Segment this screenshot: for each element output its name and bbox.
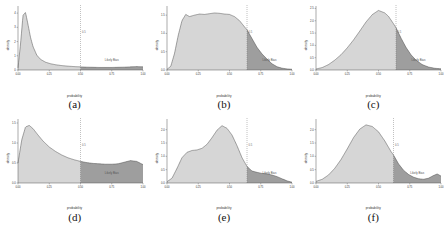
- x-tick-e-0: 0.00: [164, 184, 170, 188]
- plot-area-f: density 0.50.000.250.500.751.000.00.51.0…: [302, 115, 444, 201]
- y-tick-f-1: 0.5: [310, 167, 314, 171]
- threshold-label-b: 0.5: [249, 30, 253, 34]
- x-tick-f-0: 0.00: [314, 184, 320, 188]
- x-tick-e-2: 0.50: [227, 184, 233, 188]
- figure-grid: density 0.50.000.250.500.751.0001234Like…: [0, 0, 448, 225]
- panel-e: density 0.50.000.250.500.751.000.00.51.0…: [149, 113, 298, 226]
- x-tick-a-2: 0.50: [78, 72, 84, 76]
- density-chart-d: 0.50.000.250.500.751.000.00.51.01.5Likel…: [4, 115, 146, 201]
- y-tick-f-2: 1.0: [310, 154, 314, 158]
- density-chart-f: 0.50.000.250.500.751.000.00.51.01.52.0Li…: [302, 115, 444, 201]
- threshold-label-c: 0.5: [398, 30, 402, 34]
- x-axis-label-d: probability: [4, 206, 146, 210]
- y-tick-f-3: 1.5: [310, 141, 314, 145]
- y-tick-c-3: 1.5: [310, 31, 314, 35]
- y-tick-f-4: 2.0: [310, 127, 314, 131]
- x-tick-c-2: 0.50: [376, 72, 382, 76]
- x-tick-d-4: 1.00: [140, 184, 146, 188]
- bias-annotation-b: Likely Bias: [263, 58, 277, 62]
- bias-annotation-c: Likely Bias: [412, 58, 426, 62]
- y-tick-c-2: 1.0: [310, 43, 314, 47]
- x-tick-f-2: 0.50: [376, 184, 382, 188]
- y-tick-e-1: 0.5: [161, 167, 165, 171]
- density-chart-e: 0.50.000.250.500.751.000.00.51.01.52.0Li…: [153, 115, 295, 201]
- y-tick-c-5: 2.5: [310, 6, 314, 10]
- plot-area-e: density 0.50.000.250.500.751.000.00.51.0…: [153, 115, 295, 201]
- threshold-label-a: 0.5: [82, 30, 86, 34]
- x-tick-a-1: 0.25: [46, 72, 52, 76]
- y-tick-b-1: 0.5: [161, 50, 165, 54]
- y-tick-a-2: 2: [14, 40, 16, 44]
- x-axis-label-a: probability: [4, 94, 146, 98]
- y-tick-c-4: 2.0: [310, 19, 314, 23]
- x-tick-b-2: 0.50: [227, 72, 233, 76]
- caption-b: (b): [218, 99, 231, 110]
- x-tick-e-3: 0.75: [258, 184, 264, 188]
- x-tick-e-4: 1.00: [289, 184, 295, 188]
- y-tick-a-4: 4: [14, 11, 16, 15]
- y-tick-c-1: 0.5: [310, 56, 314, 60]
- y-tick-a-3: 3: [14, 25, 16, 29]
- x-tick-b-0: 0.00: [164, 72, 170, 76]
- y-tick-a-1: 1: [14, 54, 16, 58]
- y-tick-e-3: 1.5: [161, 141, 165, 145]
- panel-c: density 0.50.000.250.500.751.000.00.51.0…: [299, 0, 448, 113]
- y-tick-e-4: 2.0: [161, 127, 165, 131]
- x-tick-a-3: 0.75: [109, 72, 115, 76]
- bias-annotation-a: Likely Bias: [104, 58, 118, 62]
- caption-a: (a): [69, 99, 81, 110]
- panel-b: density 0.50.000.250.500.751.000.00.51.0…: [149, 0, 298, 113]
- x-axis-label-c: probability: [302, 94, 444, 98]
- caption-e: (e): [218, 212, 230, 223]
- bias-annotation-f: Likely Bias: [411, 171, 425, 175]
- y-tick-a-0: 0: [14, 68, 16, 72]
- y-tick-d-3: 1.5: [12, 121, 16, 125]
- x-tick-d-0: 0.00: [15, 184, 21, 188]
- caption-d: (d): [68, 212, 81, 223]
- caption-c: (c): [367, 99, 379, 110]
- threshold-label-e: 0.5: [249, 142, 253, 146]
- panel-d: density 0.50.000.250.500.751.000.00.51.0…: [0, 113, 149, 226]
- panel-a: density 0.50.000.250.500.751.0001234Like…: [0, 0, 149, 113]
- y-tick-b-3: 1.5: [161, 13, 165, 17]
- x-tick-c-1: 0.25: [345, 72, 351, 76]
- caption-f: (f): [368, 212, 379, 223]
- y-tick-e-2: 1.0: [161, 154, 165, 158]
- bias-annotation-d: Likely Bias: [104, 171, 118, 175]
- x-tick-b-1: 0.25: [196, 72, 202, 76]
- plot-area-a: density 0.50.000.250.500.751.0001234Like…: [4, 2, 146, 88]
- x-tick-f-4: 1.00: [439, 184, 445, 188]
- y-tick-b-2: 1.0: [161, 31, 165, 35]
- plot-area-d: density 0.50.000.250.500.751.000.00.51.0…: [4, 115, 146, 201]
- x-tick-b-3: 0.75: [258, 72, 264, 76]
- panel-f: density 0.50.000.250.500.751.000.00.51.0…: [299, 113, 448, 226]
- x-tick-d-2: 0.50: [78, 184, 84, 188]
- bias-annotation-e: Likely Bias: [263, 171, 277, 175]
- x-tick-b-4: 1.00: [289, 72, 295, 76]
- plot-area-c: density 0.50.000.250.500.751.000.00.51.0…: [302, 2, 444, 88]
- x-tick-f-1: 0.25: [345, 184, 351, 188]
- plot-area-b: density 0.50.000.250.500.751.000.00.51.0…: [153, 2, 295, 88]
- x-tick-f-3: 0.75: [407, 184, 413, 188]
- density-chart-b: 0.50.000.250.500.751.000.00.51.01.5Likel…: [153, 2, 295, 88]
- y-tick-f-0: 0.0: [310, 181, 314, 185]
- density-chart-c: 0.50.000.250.500.751.000.00.51.01.52.02.…: [302, 2, 444, 88]
- y-tick-d-2: 1.0: [12, 141, 16, 145]
- y-tick-c-0: 0.0: [310, 68, 314, 72]
- y-tick-b-0: 0.0: [161, 68, 165, 72]
- x-axis-label-e: probability: [153, 206, 295, 210]
- x-axis-label-b: probability: [153, 94, 295, 98]
- y-tick-d-0: 0.0: [12, 181, 16, 185]
- y-tick-d-1: 0.5: [12, 161, 16, 165]
- x-tick-c-0: 0.00: [314, 72, 320, 76]
- y-tick-e-0: 0.0: [161, 181, 165, 185]
- x-tick-a-0: 0.00: [15, 72, 21, 76]
- threshold-label-f: 0.5: [395, 142, 399, 146]
- x-tick-a-4: 1.00: [140, 72, 146, 76]
- threshold-label-d: 0.5: [82, 142, 86, 146]
- x-tick-c-4: 1.00: [439, 72, 445, 76]
- density-chart-a: 0.50.000.250.500.751.0001234Likely Bias: [4, 2, 146, 88]
- x-tick-c-3: 0.75: [407, 72, 413, 76]
- x-axis-label-f: probability: [302, 206, 444, 210]
- x-tick-d-3: 0.75: [109, 184, 115, 188]
